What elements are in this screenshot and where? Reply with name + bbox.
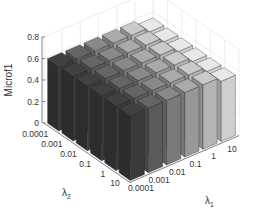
z-tick-label: 0.2 (27, 97, 39, 107)
z-tick-label: 0 (34, 118, 39, 128)
z-tick-label: 0.6 (27, 54, 39, 64)
z-tick-label: 0.4 (27, 75, 39, 85)
x-tick-label: 0.001 (148, 175, 170, 185)
y-tick-label: 0.0001 (22, 129, 48, 139)
x-tick-label: 1 (211, 151, 216, 161)
bar3d-chart: 00.20.40.60.80.00010.0010.010.11100.0001… (0, 0, 262, 218)
y-tick-label: 0.1 (79, 159, 91, 169)
z-tick-label: 0.8 (27, 32, 39, 42)
y-tick-label: 0.01 (60, 149, 77, 159)
x-axis-label: λ1 (205, 195, 214, 208)
x-tick-label: 10 (227, 144, 237, 154)
y-tick-label: 1 (101, 169, 106, 179)
x-tick-label: 0.1 (190, 159, 202, 169)
bar (119, 102, 144, 180)
y-axis-label: λ2 (62, 187, 71, 200)
z-axis-label: Microf1 (3, 63, 14, 96)
y-tick-label: 0.001 (41, 139, 63, 149)
y-tick-label: 10 (110, 178, 120, 188)
x-tick-label: 0.01 (169, 167, 186, 177)
